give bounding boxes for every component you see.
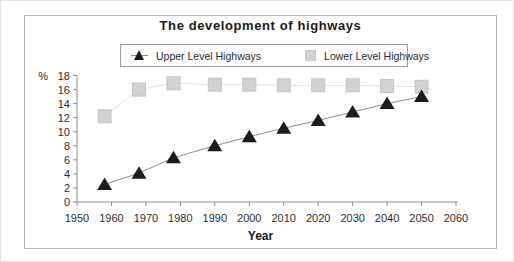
data-point-square [381,80,394,93]
y-tick-label: 4 [64,168,70,180]
x-tick-label: 1970 [134,212,158,224]
data-point-triangle [311,113,326,126]
y-tick-label: 18 [58,70,70,82]
series-line [105,83,422,116]
x-axis-title: Year [24,229,497,243]
y-axis-unit-label: % [38,70,48,82]
x-tick-label: 2020 [306,212,330,224]
x-tick-label: 1950 [65,212,89,224]
series-line [105,97,422,185]
chart-canvas: The development of highways Upper Level … [0,0,514,262]
data-point-triangle [97,177,112,190]
y-tick-label: 0 [64,196,70,208]
data-point-square [243,78,256,91]
data-point-square [346,79,359,92]
x-tick-label: 2060 [444,212,468,224]
y-tick-label: 14 [58,98,70,110]
x-tick-label: 2050 [409,212,433,224]
data-point-triangle [132,166,147,179]
y-tick-label: 12 [58,112,70,124]
y-tick-label: 10 [58,126,70,138]
data-point-triangle [345,105,360,118]
data-point-square [277,79,290,92]
y-tick-label: 16 [58,84,70,96]
x-tick-label: 2000 [237,212,261,224]
data-point-square [312,79,325,92]
plot-area: 024681012141618%195019601970198019902000… [1,1,514,262]
data-point-square [208,78,221,91]
x-tick-label: 2040 [375,212,399,224]
x-axis: 1950196019701980199020002010202020302040… [65,202,468,224]
data-point-square [167,77,180,90]
y-tick-label: 6 [64,154,70,166]
series-upper-level-highways [97,90,429,190]
x-tick-label: 1960 [99,212,123,224]
data-point-square [98,110,111,123]
data-point-triangle [242,130,257,143]
data-point-triangle [166,151,181,164]
y-axis: 024681012141618% [38,70,77,209]
y-tick-label: 8 [64,140,70,152]
y-tick-label: 2 [64,182,70,194]
x-tick-label: 1980 [168,212,192,224]
x-tick-label: 2030 [340,212,364,224]
series-lower-level-highways [98,77,428,123]
x-tick-label: 1990 [203,212,227,224]
data-point-square [133,83,146,96]
data-point-triangle [207,139,222,152]
x-tick-label: 2010 [271,212,295,224]
